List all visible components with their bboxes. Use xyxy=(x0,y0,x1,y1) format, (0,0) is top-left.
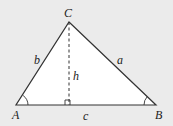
vertex-label-c: C xyxy=(64,6,73,20)
vertex-label-a: A xyxy=(11,108,20,122)
triangle-svg: C A B b a c h xyxy=(0,0,173,126)
triangle-diagram: C A B b a c h xyxy=(0,0,173,126)
side-label-a: a xyxy=(117,53,123,67)
side-label-c: c xyxy=(83,109,89,123)
altitude-label-h: h xyxy=(73,69,79,83)
vertex-label-b: B xyxy=(155,108,163,122)
side-label-b: b xyxy=(34,53,40,67)
